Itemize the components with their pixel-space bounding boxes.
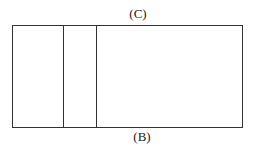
bottom-label: (B) [133, 130, 150, 144]
section-left [13, 26, 63, 127]
section-middle [63, 26, 96, 127]
section-right [96, 26, 242, 127]
divided-rectangle [12, 25, 243, 128]
top-label: (C) [129, 7, 146, 21]
